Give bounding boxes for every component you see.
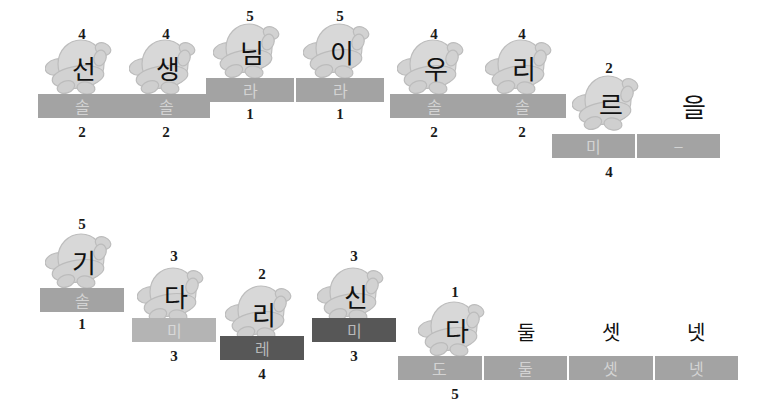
beat-number-bottom: 4 <box>589 164 629 180</box>
mascot-character-icon: 기 <box>45 230 119 292</box>
note-name-bar[interactable]: 라 <box>296 78 384 102</box>
note-name-bar[interactable]: 솔 <box>478 94 566 118</box>
syllable-text: 다 <box>137 264 211 326</box>
note-name-segment[interactable]: 라 <box>206 78 294 102</box>
beat-number-top: 3 <box>154 248 194 264</box>
note-name-segment[interactable]: 셋 <box>567 356 653 380</box>
mascot-character-icon: 다 <box>418 298 492 360</box>
mascot-character-icon: 이 <box>303 20 377 82</box>
note-name-bar[interactable]: 솔 <box>390 94 478 118</box>
note-name-bar[interactable]: 솔 <box>40 288 124 312</box>
beat-number-bottom: 1 <box>320 106 360 122</box>
worksheet-canvas: 4 선솔24 <box>0 0 761 420</box>
note-name-bar[interactable]: 미 <box>132 318 216 342</box>
note-name-segment[interactable]: 도 <box>398 356 482 380</box>
note-name-segment[interactable]: 솔 <box>40 288 124 312</box>
beat-number-top: 2 <box>242 266 282 282</box>
beat-number-bottom: 5 <box>435 386 475 402</box>
mascot-character-icon: 리 <box>485 36 559 98</box>
beat-number-top: 3 <box>334 248 374 264</box>
syllable-text: 우 <box>397 36 471 98</box>
count-syllable-text: 넷 <box>659 300 733 362</box>
mascot-character-icon: 르 <box>572 72 646 134</box>
count-syllable-text: 둘 <box>489 300 563 362</box>
beat-number-bottom: 1 <box>62 316 102 332</box>
beat-number-bottom: 4 <box>242 366 282 382</box>
mascot-character-icon: 다 <box>137 264 211 326</box>
mascot-character-icon: 선 <box>45 36 119 98</box>
syllable-text: 생 <box>129 36 203 98</box>
syllable-text-secondary: 을 <box>657 74 731 136</box>
syllable-text: 님 <box>213 20 287 82</box>
syllable-text: 선 <box>45 36 119 98</box>
syllable-text: 신 <box>317 264 391 326</box>
note-name-segment[interactable]: 솔 <box>390 94 478 118</box>
note-name-segment[interactable]: 넷 <box>653 356 739 380</box>
syllable-text: 이 <box>303 20 377 82</box>
note-name-bar[interactable]: 레 <box>220 336 304 360</box>
syllable-text: 르 <box>572 72 646 134</box>
note-name-bar[interactable]: 미 <box>312 318 396 342</box>
mascot-character-icon: 신 <box>317 264 391 326</box>
note-name-segment[interactable]: 솔 <box>38 94 126 118</box>
note-name-segment[interactable]: 미 <box>132 318 216 342</box>
note-name-segment[interactable]: – <box>635 134 720 158</box>
beat-number-bottom: 2 <box>146 124 186 140</box>
syllable-text: 기 <box>45 230 119 292</box>
count-syllable-text: 셋 <box>574 300 648 362</box>
note-name-segment[interactable]: 둘 <box>482 356 568 380</box>
note-name-bar[interactable]: 솔 <box>122 94 210 118</box>
note-name-segment[interactable]: 레 <box>220 336 304 360</box>
beat-number-bottom: 2 <box>62 124 102 140</box>
syllable-text: 다 <box>418 298 492 360</box>
syllable-text: 리 <box>485 36 559 98</box>
note-name-bar[interactable]: 도둘셋넷 <box>398 356 738 380</box>
note-name-segment[interactable]: 미 <box>312 318 396 342</box>
mascot-character-icon: 리 <box>225 282 299 344</box>
note-name-segment[interactable]: 미 <box>552 134 635 158</box>
beat-number-bottom: 3 <box>334 348 374 364</box>
beat-number-bottom: 3 <box>154 348 194 364</box>
note-name-segment[interactable]: 라 <box>296 78 384 102</box>
beat-number-bottom: 1 <box>230 106 270 122</box>
note-name-bar[interactable]: 솔 <box>38 94 126 118</box>
syllable-text: 리 <box>225 282 299 344</box>
note-name-segment[interactable]: 솔 <box>122 94 210 118</box>
mascot-character-icon: 생 <box>129 36 203 98</box>
mascot-character-icon: 우 <box>397 36 471 98</box>
note-name-bar[interactable]: 미– <box>552 134 720 158</box>
beat-number-bottom: 2 <box>502 124 542 140</box>
beat-number-bottom: 2 <box>414 124 454 140</box>
mascot-character-icon: 님 <box>213 20 287 82</box>
note-name-bar[interactable]: 라 <box>206 78 294 102</box>
note-name-segment[interactable]: 솔 <box>478 94 566 118</box>
